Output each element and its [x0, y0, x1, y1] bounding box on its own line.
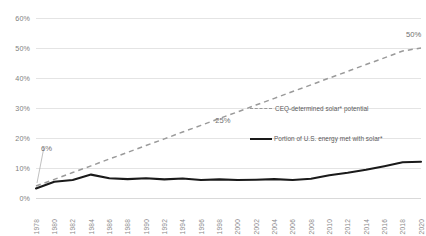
y-tick-label: 20%	[0, 134, 30, 143]
legend-item-label: Portion of U.S. energy met with solar*	[274, 135, 382, 142]
annotation-6-percent: 6%	[41, 144, 52, 153]
x-tick-label: 1978	[33, 219, 40, 234]
y-tick-label: 30%	[0, 104, 30, 113]
x-tick-label: 2010	[326, 219, 333, 234]
x-tick-label: 2016	[381, 219, 388, 234]
series-line-portion-met	[36, 162, 421, 189]
x-tick-label: 2006	[289, 219, 296, 234]
x-tick-label: 1982	[69, 219, 76, 234]
y-tick-label: 40%	[0, 74, 30, 83]
x-tick-label: 1986	[106, 219, 113, 234]
chart-container: 0%10%20%30%40%50%60% 1978198019821984198…	[0, 0, 426, 236]
x-tick-label: 1994	[179, 219, 186, 234]
legend-item-portion-met: Portion of U.S. energy met with solar*	[250, 135, 382, 142]
legend-item-ceq-potential: CEQ-determined solar* potential	[250, 105, 369, 112]
y-tick-label: 0%	[0, 194, 30, 203]
x-tick-label: 1980	[51, 219, 58, 234]
legend-dashed-swatch-icon	[250, 108, 272, 109]
x-tick-label: 2004	[271, 219, 278, 234]
y-tick-label: 60%	[0, 14, 30, 23]
gridline-0%	[36, 198, 421, 199]
x-tick-label: 2014	[363, 219, 370, 234]
x-tick-label: 2008	[308, 219, 315, 234]
x-tick-label: 2018	[399, 219, 406, 234]
x-tick-label: 1996	[198, 219, 205, 234]
x-tick-label: 1988	[124, 219, 131, 234]
y-tick-label: 50%	[0, 44, 30, 53]
legend-solid-swatch-icon	[250, 138, 272, 140]
x-tick-label: 1998	[216, 219, 223, 234]
x-tick-label: 2020	[418, 219, 425, 234]
annotation-25-percent: 25%	[215, 116, 230, 125]
x-tick-label: 2002	[253, 219, 260, 234]
x-tick-label: 2000	[234, 219, 241, 234]
y-tick-label: 10%	[0, 164, 30, 173]
legend-item-label: CEQ-determined solar* potential	[275, 105, 369, 112]
plot-area: 1978198019821984198619881990199219941996…	[36, 18, 421, 198]
x-tick-label: 1990	[143, 219, 150, 234]
x-tick-label: 1992	[161, 219, 168, 234]
x-tick-label: 2012	[344, 219, 351, 234]
annotation-50-percent: 50%	[406, 30, 421, 39]
x-tick-label: 1984	[88, 219, 95, 234]
